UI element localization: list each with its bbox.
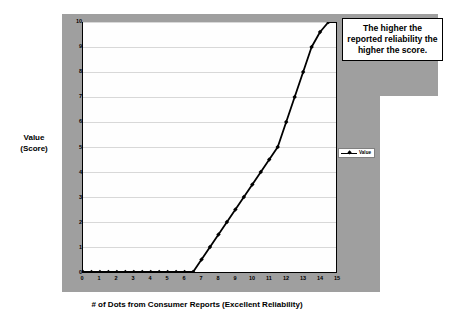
- y-axis-tick-label: 2: [64, 220, 82, 226]
- x-axis-tick-label: 9: [227, 276, 243, 282]
- y-axis-tick-label: 10: [64, 19, 82, 25]
- x-axis-tick-label: 14: [312, 276, 328, 282]
- y-axis-tick-label: 4: [64, 170, 82, 176]
- x-axis-ticks: 0123456789101112131415: [82, 276, 337, 288]
- x-axis-tick-label: 12: [278, 276, 294, 282]
- x-axis-tick-label: 1: [91, 276, 107, 282]
- y-axis-title-line2: (Score): [8, 144, 60, 155]
- y-axis-tick-label: 1: [64, 245, 82, 251]
- x-axis-tick-label: 15: [329, 276, 345, 282]
- plot-area: [82, 22, 337, 273]
- x-axis-tick-label: 2: [108, 276, 124, 282]
- y-axis-title-line1: Value: [8, 133, 60, 144]
- chart-legend: Value: [338, 148, 375, 158]
- x-axis-tick-label: 5: [159, 276, 175, 282]
- y-axis-tick-label: 0: [64, 270, 82, 276]
- x-axis-tick-label: 11: [261, 276, 277, 282]
- legend-line-marker-icon: [341, 150, 357, 156]
- x-axis-title: # of Dots from Consumer Reports (Excelle…: [42, 300, 352, 309]
- x-axis-tick-label: 10: [244, 276, 260, 282]
- x-axis-tick-label: 6: [176, 276, 192, 282]
- y-axis-tick-label: 7: [64, 95, 82, 101]
- callout-textbox: The higher the reported reliability the …: [342, 18, 443, 61]
- y-axis-tick-label: 6: [64, 120, 82, 126]
- chart-figure: 109876543210 0123456789101112131415 Valu…: [0, 0, 453, 323]
- y-axis-ticks: 109876543210: [60, 22, 82, 273]
- y-axis-tick-label: 3: [64, 195, 82, 201]
- y-axis-title: Value (Score): [8, 133, 60, 155]
- x-axis-tick-label: 4: [142, 276, 158, 282]
- x-axis-tick-label: 3: [125, 276, 141, 282]
- x-axis-tick-label: 8: [210, 276, 226, 282]
- y-axis-tick-label: 9: [64, 44, 82, 50]
- x-axis-tick-label: 7: [193, 276, 209, 282]
- series-line-value: [83, 22, 337, 272]
- y-axis-tick-label: 5: [64, 145, 82, 151]
- x-axis-tick-label: 0: [74, 276, 90, 282]
- legend-label-value: Value: [359, 151, 371, 156]
- y-axis-tick-label: 8: [64, 69, 82, 75]
- x-axis-tick-label: 13: [295, 276, 311, 282]
